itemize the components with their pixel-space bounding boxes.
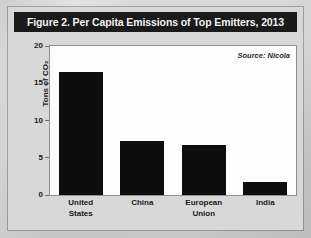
bar-series bbox=[50, 46, 296, 195]
y-axis-tick: 0 bbox=[39, 190, 49, 200]
figure-title: Figure 2. Per Capita Emissions of Top Em… bbox=[27, 16, 284, 28]
scanned-page: Figure 2. Per Capita Emissions of Top Em… bbox=[0, 0, 311, 238]
bar-slot bbox=[182, 46, 226, 195]
bar-slot bbox=[59, 46, 103, 195]
y-axis-tick: 5 bbox=[39, 153, 49, 163]
x-axis-label-line: China bbox=[110, 198, 174, 209]
x-axis-label-united-states: UnitedStates bbox=[49, 198, 113, 219]
bar-india bbox=[243, 182, 287, 195]
x-axis-label-line: States bbox=[49, 209, 113, 220]
x-axis-label-line: Union bbox=[172, 209, 236, 220]
x-axis-label-india: India bbox=[233, 198, 297, 209]
x-axis-label-european-union: EuropeanUnion bbox=[172, 198, 236, 219]
figure-card: Figure 2. Per Capita Emissions of Top Em… bbox=[8, 7, 303, 230]
figure-title-bar: Figure 2. Per Capita Emissions of Top Em… bbox=[14, 12, 297, 32]
bar-slot bbox=[120, 46, 164, 195]
x-axis-labels: UnitedStatesChinaEuropeanUnionIndia bbox=[50, 198, 296, 238]
y-axis-tick-label: 0 bbox=[39, 190, 43, 200]
y-axis-tick-label: 5 bbox=[39, 153, 43, 163]
x-axis-label-line: European bbox=[172, 198, 236, 209]
x-axis-label-line: India bbox=[233, 198, 297, 209]
bar-united-states bbox=[59, 72, 103, 195]
bar-slot bbox=[243, 46, 287, 195]
bar-european-union bbox=[182, 145, 226, 195]
x-axis-label-line: United bbox=[49, 198, 113, 209]
bar-china bbox=[120, 141, 164, 195]
x-axis-label-china: China bbox=[110, 198, 174, 209]
